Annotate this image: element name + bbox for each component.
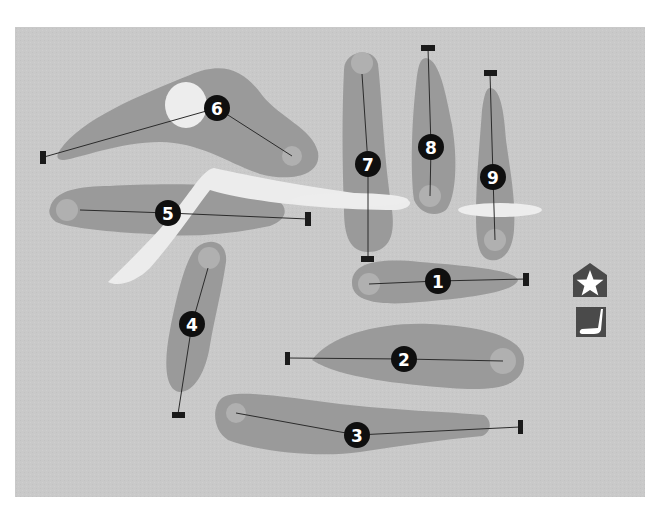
tee-box-hole-5 [305, 212, 311, 226]
hole-marker-5[interactable]: 5 [155, 200, 181, 226]
hole-marker-6[interactable]: 6 [204, 95, 230, 121]
tee-box-hole-7 [361, 256, 374, 262]
hole-number-label: 5 [162, 204, 174, 224]
hole-marker-3[interactable]: 3 [344, 422, 370, 448]
tee-box-hole-1 [523, 273, 529, 286]
hole-marker-2[interactable]: 2 [391, 346, 417, 372]
golf-course-map: 123456789 [0, 0, 658, 516]
hole-number-label: 1 [432, 272, 444, 292]
hole-marker-7[interactable]: 7 [355, 151, 381, 177]
hole-marker-9[interactable]: 9 [480, 164, 506, 190]
hole-number-label: 2 [398, 350, 410, 370]
bunker-hole-7 [292, 193, 408, 207]
tee-box-hole-9 [484, 70, 497, 76]
bunker-hole-9 [458, 203, 542, 217]
hole-marker-4[interactable]: 4 [179, 311, 205, 337]
tee-box-hole-8 [421, 45, 435, 51]
hole-number-label: 4 [186, 315, 198, 335]
tee-box-hole-4 [172, 412, 185, 418]
green-hole-7 [351, 52, 373, 74]
hole-marker-1[interactable]: 1 [425, 268, 451, 294]
hole-number-label: 9 [487, 168, 499, 188]
putting-green-icon[interactable] [576, 307, 606, 337]
hole-number-label: 8 [425, 138, 437, 158]
hole-number-label: 6 [211, 99, 223, 119]
hole-number-label: 7 [362, 155, 374, 175]
green-hole-4 [198, 247, 220, 269]
green-hole-5 [56, 199, 78, 221]
tee-box-hole-2 [285, 352, 290, 365]
tee-box-hole-6 [40, 151, 46, 164]
hole-marker-8[interactable]: 8 [418, 134, 444, 160]
hole-number-label: 3 [351, 426, 363, 446]
tee-box-hole-3 [518, 420, 523, 434]
